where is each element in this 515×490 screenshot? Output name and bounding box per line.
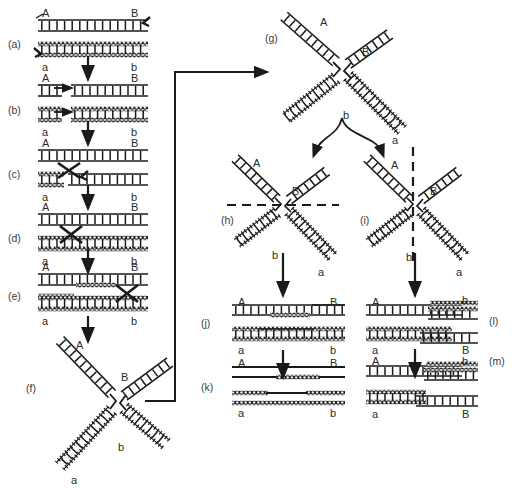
panel-a-nick-right	[143, 17, 150, 26]
panel-id-k: (k)	[201, 381, 213, 393]
panel-g-arm-a	[344, 72, 405, 133]
end-label-i-b-2: b	[406, 252, 412, 263]
panel-f-arm-A	[56, 337, 115, 398]
end-label-i-b-1: B	[430, 186, 437, 197]
panel-h-arm-b	[234, 208, 280, 246]
figure-canvas: (a) (b) (c) (d) (e) (f) (g) (h) (i) (j) …	[0, 0, 515, 490]
panel-f-arm-B	[121, 358, 173, 400]
panel-m-duplex-bottom-left	[366, 390, 426, 405]
panel-j-patch-top	[270, 313, 310, 318]
panel-i-arm-B	[418, 167, 461, 203]
panel-id-f: (f)	[26, 382, 36, 394]
end-label-g-b-1: B	[362, 47, 369, 58]
panel-i-arm-b	[366, 208, 412, 246]
end-label-e-b-3: b	[131, 316, 137, 327]
panel-i-arm-A	[364, 155, 412, 202]
end-label-g-a-3: a	[392, 135, 398, 146]
end-label-a-b-1: B	[131, 8, 138, 19]
panel-b-top-left	[38, 85, 62, 96]
panel-f-arm-b	[121, 404, 170, 448]
panel-m-duplex-top-right	[424, 368, 478, 380]
panel-id-a: (a)	[8, 38, 21, 50]
panel-e-hetero-top	[76, 283, 116, 288]
panel-f-junction-left	[110, 394, 116, 409]
end-label-j-b-3: b	[330, 345, 336, 356]
end-label-l-a-0: A	[372, 297, 379, 308]
end-label-d-b-1: B	[131, 202, 138, 213]
end-label-j-a-2: a	[238, 345, 244, 356]
end-label-d-a-0: A	[42, 202, 49, 213]
panel-id-b: (b)	[8, 104, 21, 116]
end-label-h-a-3: a	[318, 267, 324, 278]
end-label-f-a-3: a	[71, 475, 77, 486]
end-label-a-a-0: A	[42, 8, 49, 19]
end-label-i-a-3: a	[456, 267, 462, 278]
end-label-h-b-2: b	[272, 250, 278, 261]
panel-i-arm-a	[418, 208, 469, 260]
panel-d-top	[38, 214, 148, 225]
panel-g-arm-A	[281, 12, 340, 65]
panel-k-strand-b	[232, 401, 345, 406]
end-label-j-b-1: B	[330, 297, 337, 308]
end-label-k-b-3: b	[330, 408, 336, 419]
end-label-m-b-1: b	[462, 356, 468, 367]
panel-l-crossover-top	[430, 301, 478, 306]
panel-f-arm-a	[56, 407, 115, 470]
panel-m-crossover-top	[426, 362, 478, 367]
panel-id-l: (l)	[489, 315, 498, 327]
panel-b-bot-left	[38, 107, 62, 123]
end-label-m-a-2: a	[372, 409, 378, 420]
end-label-c-a-0: A	[42, 138, 49, 149]
panel-id-c: (c)	[8, 168, 20, 180]
panel-id-d: (d)	[8, 232, 21, 244]
end-label-f-b-1: B	[121, 372, 128, 383]
panel-i-junction-right	[417, 199, 423, 212]
end-label-j-a-0: A	[238, 297, 245, 308]
end-label-g-a-0: A	[320, 17, 327, 28]
end-label-k-a-0: A	[238, 358, 245, 369]
panel-g-arm-b	[283, 74, 339, 122]
panel-a-duplex-top	[38, 20, 148, 31]
end-label-m-b-3: B	[462, 409, 469, 420]
panel-c-top	[38, 150, 148, 161]
panel-g-junction-right	[344, 63, 351, 78]
panel-d-bottom	[38, 236, 148, 252]
panel-c-bot-left	[38, 172, 64, 188]
flow-arrow-g-to-h	[315, 118, 342, 152]
end-label-f-b-2: b	[118, 442, 124, 453]
panel-e-hetero-bot-left	[38, 294, 74, 299]
panel-id-j: (j)	[201, 317, 210, 329]
end-label-k-b-1: B	[330, 358, 337, 369]
end-label-c-b-1: B	[131, 138, 138, 149]
panel-id-e: (e)	[8, 290, 21, 302]
end-label-h-a-0: A	[253, 158, 260, 169]
panel-a-duplex-bottom	[38, 42, 148, 58]
panel-id-m: (m)	[489, 355, 505, 367]
end-label-e-a-2: a	[42, 316, 48, 327]
end-label-m-a-0: A	[372, 356, 379, 367]
panel-id-g: (g)	[265, 32, 278, 44]
end-label-f-a-0: A	[76, 340, 83, 351]
panel-k-hetero-2	[232, 391, 268, 396]
panel-c-bot-right	[68, 174, 148, 185]
end-label-l-b-1: b	[462, 295, 468, 306]
panel-h-arm-a	[286, 208, 337, 260]
end-label-h-b-1: B	[292, 186, 299, 197]
diagram-svg	[0, 0, 515, 490]
end-label-g-b-2: b	[343, 110, 349, 121]
panel-b-bot-right	[71, 107, 148, 123]
end-label-k-a-2: a	[238, 408, 244, 419]
end-label-e-a-0: A	[42, 262, 49, 273]
end-label-b-b-1: B	[131, 73, 138, 84]
panel-id-i: (i)	[360, 214, 369, 226]
end-label-i-a-0: A	[391, 160, 398, 171]
panel-f-junction-right	[120, 395, 126, 410]
end-label-e-b-1: B	[131, 262, 138, 273]
panel-k-hetero-1	[276, 375, 320, 380]
panel-k-hetero-3	[306, 391, 345, 396]
end-label-b-a-0: A	[42, 73, 49, 84]
panel-g-junction-left	[333, 62, 340, 77]
panel-id-h: (h)	[221, 214, 234, 226]
panel-b-top-right	[71, 85, 148, 96]
panel-a-nick-left	[34, 48, 41, 57]
